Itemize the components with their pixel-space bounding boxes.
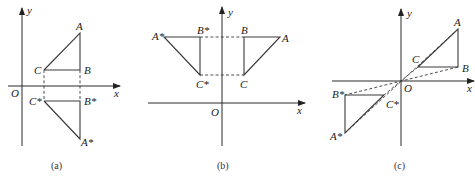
triangle-abc-star xyxy=(345,95,384,133)
caption-b: (b) xyxy=(217,160,229,172)
point-label-a: A xyxy=(281,32,289,44)
point-label-b: B xyxy=(462,62,469,74)
point-label-a-star: A* xyxy=(80,136,94,148)
point-label-b-star: B* xyxy=(197,24,210,36)
origin-label: O xyxy=(404,82,412,94)
point-label-a: A xyxy=(453,16,461,28)
caption-a: (a) xyxy=(51,160,62,172)
triangle-abc xyxy=(44,33,80,70)
origin-label: O xyxy=(11,87,19,99)
point-label-b: B xyxy=(84,64,91,76)
panel-a: y x O A B C C* B* A* (a) xyxy=(8,4,120,172)
point-label-a: A xyxy=(75,20,83,32)
point-label-b-star: B* xyxy=(84,95,97,107)
panel-c: y x O A B C B* C* A* (c) xyxy=(329,7,474,172)
point-label-a-star: A* xyxy=(329,130,343,142)
point-label-c-star: C* xyxy=(29,95,42,107)
point-label-c-star: C* xyxy=(386,98,399,110)
point-label-b-star: B* xyxy=(332,88,345,100)
panel-b: y x O B A C A* B* C* (b) xyxy=(148,6,305,172)
caption-c: (c) xyxy=(394,160,405,172)
point-label-c: C xyxy=(34,64,42,76)
y-axis-label: y xyxy=(406,7,412,19)
triangle-abc-star xyxy=(164,37,200,75)
point-label-a-star: A* xyxy=(151,30,165,42)
x-axis-label: x xyxy=(466,82,472,94)
reflection-diagrams: y x O A B C C* B* A* (a) y x O B A C A* xyxy=(0,0,475,187)
point-label-b: B xyxy=(241,24,248,36)
y-axis-label: y xyxy=(26,4,32,16)
point-label-c: C xyxy=(412,53,420,65)
point-label-c: C xyxy=(240,78,248,90)
x-axis-label: x xyxy=(296,104,302,116)
y-axis-label: y xyxy=(227,6,233,18)
point-label-c-star: C* xyxy=(196,78,209,90)
triangle-abc-star xyxy=(44,101,80,139)
origin-label: O xyxy=(211,106,219,118)
triangle-abc xyxy=(244,37,280,75)
x-axis-label: x xyxy=(113,87,119,99)
